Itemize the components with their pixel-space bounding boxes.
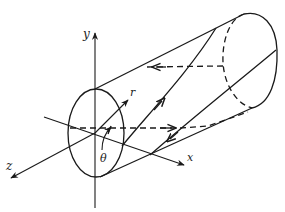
x-axis [44, 117, 184, 165]
far-cap-visible-arc [244, 13, 277, 108]
radius-label: r [130, 86, 136, 99]
y-axis-label: y [82, 27, 90, 41]
far-cap-hidden-arc [223, 14, 252, 108]
top-generator-line [95, 14, 244, 89]
x-axis-label: x [187, 151, 194, 164]
near-cap-ellipse [68, 89, 124, 177]
hidden-path-lower [70, 112, 248, 128]
z-axis-label: z [5, 159, 13, 173]
helix-arrow-1 [154, 101, 162, 110]
helix-segment-front-2 [150, 50, 276, 155]
helix-arrow-2 [170, 132, 178, 139]
cylinder-diagram: y z x r θ [0, 0, 285, 212]
theta-label: θ [100, 152, 107, 165]
